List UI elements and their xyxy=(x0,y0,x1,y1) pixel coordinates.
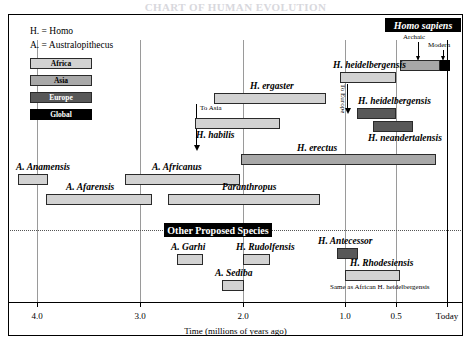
modern-arrow-icon xyxy=(443,50,444,56)
chart-of-human-evolution: CHART OF HUMAN EVOLUTION H. = Homo A. = … xyxy=(0,0,471,344)
archaic-arrow-icon xyxy=(418,42,419,56)
label-paranthropus: Paranthropus xyxy=(222,182,276,192)
label-h-erectus: H. erectus xyxy=(297,143,337,153)
archaic-label: Archaic xyxy=(403,33,425,41)
chart-title: CHART OF HUMAN EVOLUTION xyxy=(0,1,471,13)
x-axis-line xyxy=(8,302,463,303)
label-h-neandertalensis: H. neandertalensis xyxy=(368,133,442,143)
x-tick-today xyxy=(447,302,448,307)
bar-a-garhi xyxy=(177,254,203,265)
label-h-antecessor: H. Antecessor xyxy=(318,236,373,246)
x-tick-1.0 xyxy=(345,302,346,307)
label-a-sediba: A. Sediba xyxy=(215,268,252,278)
bar-homo-sapiens-modern xyxy=(440,60,450,71)
to-europe-label: To Europe xyxy=(339,84,347,113)
label-h-rudolfensis: H. Rudolfensis xyxy=(236,242,295,252)
x-tick-label-4.0: 4.0 xyxy=(17,311,57,321)
bar-h-ergaster xyxy=(214,93,326,104)
x-tick-3.0 xyxy=(140,302,141,307)
x-axis-title: Time (millions of years ago) xyxy=(0,326,471,336)
bar-a-anamensis xyxy=(18,174,48,185)
label-h-ergaster: H. ergaster xyxy=(250,81,294,91)
label-a-anamensis: A. Anamensis xyxy=(16,162,70,172)
to-europe-arrow-icon xyxy=(347,84,348,109)
bar-h-rhodesiensis xyxy=(345,270,400,281)
gridline-today xyxy=(447,40,448,302)
bar-a-afarensis xyxy=(46,194,152,205)
x-tick-label-3.0: 3.0 xyxy=(120,311,160,321)
bar-h-rudolfensis xyxy=(243,254,270,265)
legend-swatch-europe: Europe xyxy=(30,92,92,103)
bar-homo-sapiens-archaic xyxy=(400,60,440,71)
label-h-heidelbergensis-europe: H. heidelbergensis xyxy=(358,96,431,106)
rhodesiensis-note: Same as African H. heidelbergensis xyxy=(330,283,430,291)
modern-label: Modern xyxy=(428,41,450,49)
x-tick-4.0 xyxy=(37,302,38,307)
x-tick-label-2.0: 2.0 xyxy=(223,311,263,321)
legend-swatch-africa: Africa xyxy=(30,58,92,69)
legend-key-homo: H. = Homo xyxy=(30,26,73,36)
label-a-afarensis: A. Afarensis xyxy=(66,182,114,192)
bar-h-heidelbergensis-africa xyxy=(340,72,396,83)
legend-swatch-global: Global xyxy=(30,109,92,120)
x-tick-label-1.0: 1.0 xyxy=(325,311,365,321)
to-asia-label: To Asia xyxy=(200,104,221,112)
bar-h-neandertalensis xyxy=(373,121,413,132)
legend-key-australopithecus: A. = Australopithecus xyxy=(30,40,113,50)
x-tick-label-today: Today xyxy=(427,311,467,321)
bar-a-sediba xyxy=(222,280,244,291)
label-h-habilis: H. habilis xyxy=(196,130,235,140)
bar-h-erectus xyxy=(241,154,436,165)
x-tick-label-0.5: 0.5 xyxy=(376,311,416,321)
bar-h-habilis xyxy=(195,118,280,129)
homo-sapiens-banner: Homo sapiens xyxy=(385,18,461,32)
bar-h-heidelbergensis-europe xyxy=(357,108,396,119)
label-a-garhi: A. Garhi xyxy=(171,242,205,252)
x-tick-0.5 xyxy=(396,302,397,307)
legend-swatch-asia: Asia xyxy=(30,75,92,86)
gridline-3.0 xyxy=(140,40,141,302)
label-h-heidelbergensis-africa: H. heidelbergensis xyxy=(333,60,406,70)
other-proposed-species-banner: Other Proposed Species xyxy=(164,223,272,237)
x-tick-2.0 xyxy=(243,302,244,307)
label-h-rhodesiensis: H. Rhodesiensis xyxy=(350,258,413,268)
label-a-africanus: A. Africanus xyxy=(152,162,202,172)
bar-paranthropus xyxy=(168,194,320,205)
